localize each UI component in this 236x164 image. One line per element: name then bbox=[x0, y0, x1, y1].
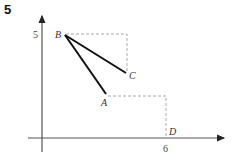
dashed-guides bbox=[66, 34, 166, 138]
point-c-label: C bbox=[129, 70, 136, 81]
point-b-label: B bbox=[55, 29, 61, 40]
point-d-label: D bbox=[168, 126, 177, 137]
x-tick-6: 6 bbox=[163, 143, 168, 154]
segment-ba bbox=[65, 35, 106, 94]
point-a-label: A bbox=[100, 97, 108, 108]
y-tick-5: 5 bbox=[33, 29, 38, 40]
segment-bc bbox=[65, 35, 126, 73]
coordinate-diagram: 5 6 B C A D bbox=[0, 0, 236, 164]
